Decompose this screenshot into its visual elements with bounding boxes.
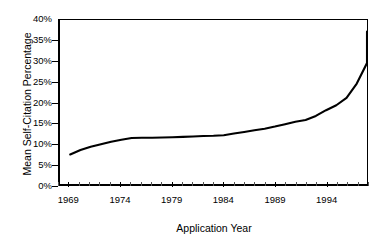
x-tick-mark-minor — [265, 182, 266, 186]
x-tick-label: 1984 — [203, 195, 243, 205]
y-tick-label: 10% — [18, 139, 52, 149]
x-tick-mark-minor — [285, 182, 286, 186]
x-tick-mark-minor — [161, 182, 162, 186]
x-axis-title: Application Year — [58, 222, 370, 234]
x-tick-mark-major — [172, 182, 173, 187]
y-tick-label: 40% — [18, 14, 52, 24]
x-tick-mark-minor — [141, 182, 142, 186]
y-tick-mark — [52, 186, 58, 187]
x-tick-mark-minor — [130, 182, 131, 186]
x-tick-mark-minor — [79, 182, 80, 186]
x-tick-label: 1969 — [48, 195, 88, 205]
x-tick-mark-minor — [192, 182, 193, 186]
x-tick-mark-minor — [368, 182, 369, 186]
chart-figure: Mean Self-Citation Percentage 0%5%10%15%… — [0, 0, 381, 247]
x-tick-mark-minor — [347, 182, 348, 186]
x-tick-mark-minor — [89, 182, 90, 186]
data-series-line — [70, 31, 367, 154]
x-tick-label: 1979 — [152, 195, 192, 205]
x-tick-mark-minor — [99, 182, 100, 186]
x-tick-mark-minor — [296, 182, 297, 186]
x-tick-mark-minor — [254, 182, 255, 186]
x-tick-mark-major — [327, 182, 328, 187]
x-tick-mark-minor — [358, 182, 359, 186]
y-tick-label: 25% — [18, 77, 52, 87]
x-tick-mark-minor — [203, 182, 204, 186]
x-tick-label: 1974 — [100, 195, 140, 205]
data-line-svg — [60, 20, 367, 184]
x-tick-mark-major — [223, 182, 224, 187]
x-tick-mark-minor — [337, 182, 338, 186]
x-tick-mark-minor — [234, 182, 235, 186]
y-tick-label: 30% — [18, 56, 52, 66]
y-tick-label: 20% — [18, 98, 52, 108]
x-tick-mark-minor — [110, 182, 111, 186]
plot-area — [58, 19, 368, 186]
x-tick-mark-minor — [182, 182, 183, 186]
x-tick-mark-minor — [316, 182, 317, 186]
x-tick-mark-minor — [213, 182, 214, 186]
y-tick-label: 5% — [18, 160, 52, 170]
y-tick-label: 0% — [18, 181, 52, 191]
x-tick-mark-minor — [306, 182, 307, 186]
x-tick-label: 1989 — [255, 195, 295, 205]
y-tick-label: 15% — [18, 118, 52, 128]
x-tick-label: 1994 — [307, 195, 347, 205]
x-tick-mark-major — [68, 182, 69, 187]
y-tick-label: 35% — [18, 35, 52, 45]
x-tick-mark-major — [275, 182, 276, 187]
x-tick-mark-minor — [151, 182, 152, 186]
x-tick-mark-minor — [244, 182, 245, 186]
x-tick-mark-major — [120, 182, 121, 187]
x-tick-mark-minor — [58, 182, 59, 186]
